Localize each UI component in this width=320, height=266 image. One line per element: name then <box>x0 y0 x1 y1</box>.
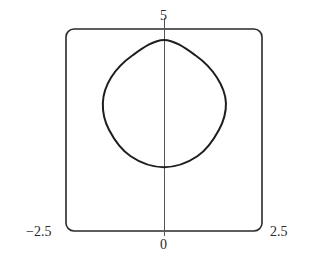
y-max-tick-label: 5 <box>160 9 167 23</box>
x-min-tick-label: −2.5 <box>26 225 51 239</box>
x-zero-tick-label: 0 <box>160 238 167 252</box>
x-max-tick-label: 2.5 <box>270 225 288 239</box>
